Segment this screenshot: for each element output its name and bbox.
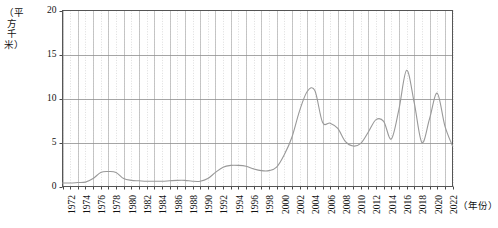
tick-marks (60, 12, 454, 190)
plot-area (0, 0, 498, 228)
data-line-series-1 (63, 70, 453, 183)
plot-frame (63, 11, 453, 187)
grid-minor-vertical (64, 11, 454, 187)
chart-figure: （平方千米） （年份） 05101520 1972197419761978198… (0, 0, 498, 228)
